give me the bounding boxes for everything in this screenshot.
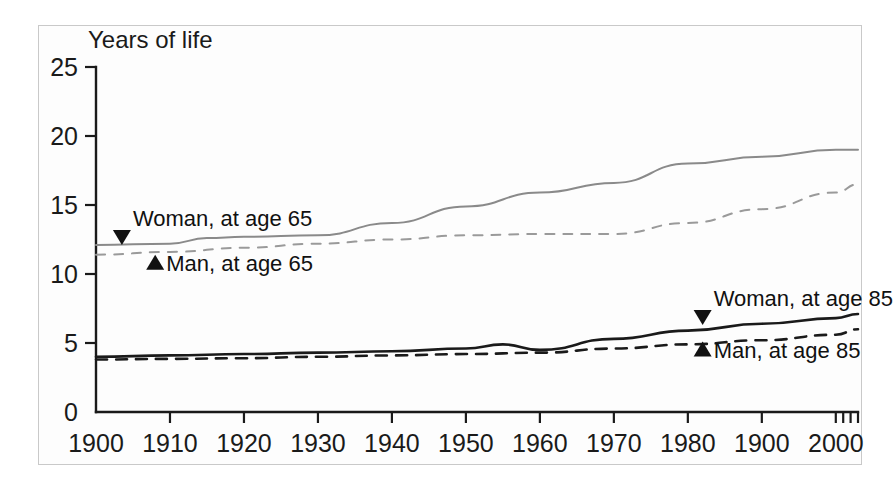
- y-tick-label: 5: [64, 329, 78, 357]
- y-tick-label: 20: [50, 122, 78, 150]
- line-chart: 0510152025190019101920193019401950196019…: [0, 0, 895, 492]
- y-axis-title: Years of life: [88, 26, 213, 53]
- x-tick-label: 1950: [438, 429, 494, 457]
- x-tick-label: 1900: [734, 429, 790, 457]
- triangle-down-icon: [113, 230, 131, 245]
- chart-figure: 0510152025190019101920193019401950196019…: [0, 0, 895, 492]
- x-tick-label: 1930: [290, 429, 346, 457]
- x-tick-label: 1980: [660, 429, 716, 457]
- y-tick-label: 0: [64, 398, 78, 426]
- axes-layer: 0510152025190019101920193019401950196019…: [50, 26, 863, 457]
- annotation-label: Woman, at age 65: [133, 206, 312, 231]
- x-tick-label: 2000: [808, 429, 864, 457]
- annotation-label: Woman, at age 85: [714, 286, 893, 311]
- annotation-man-at-age-65: Man, at age 65: [146, 251, 313, 276]
- triangle-down-icon: [694, 310, 712, 325]
- y-tick-label: 15: [50, 191, 78, 219]
- y-tick-label: 10: [50, 260, 78, 288]
- x-tick-label: 1960: [512, 429, 568, 457]
- triangle-up-icon: [146, 255, 164, 270]
- x-tick-label: 1940: [364, 429, 420, 457]
- annotation-label: Man, at age 65: [166, 251, 313, 276]
- annotation-woman-at-age-65: Woman, at age 65: [113, 206, 312, 245]
- annotation-woman-at-age-85: Woman, at age 85: [694, 286, 893, 325]
- x-tick-label: 1920: [216, 429, 272, 457]
- annotation-layer: Woman, at age 65Man, at age 65Woman, at …: [113, 206, 893, 363]
- x-tick-label: 1970: [586, 429, 642, 457]
- annotation-man-at-age-85: Man, at age 85: [694, 338, 861, 363]
- x-tick-label: 1910: [142, 429, 198, 457]
- x-tick-label: 1900: [68, 429, 124, 457]
- y-tick-label: 25: [50, 53, 78, 81]
- annotation-label: Man, at age 85: [714, 338, 861, 363]
